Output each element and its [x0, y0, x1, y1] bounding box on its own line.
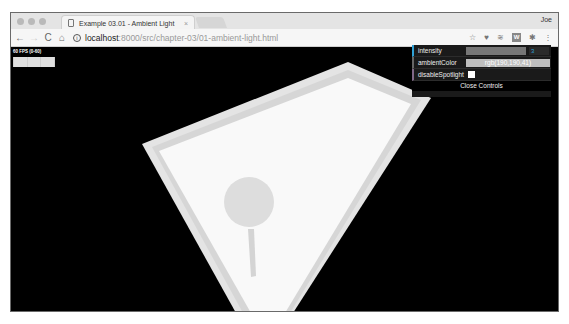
control-disable-spotlight: disableSpotlight [412, 69, 551, 81]
extension-bar: ☆ ♥ ≋ W ✱ ⋮ [469, 33, 552, 42]
sphere-object [224, 177, 274, 227]
ambient-color-label: ambientColor [418, 59, 466, 66]
ambient-color-input[interactable]: rgb(190,190,41) [466, 59, 550, 67]
home-icon[interactable]: ⌂ [55, 32, 69, 43]
buffer-icon[interactable]: ≋ [497, 33, 504, 42]
control-ambient-color: ambientColor rgb(190,190,41) [412, 57, 551, 69]
forward-arrow-icon[interactable]: → [27, 32, 41, 43]
info-icon[interactable]: i [73, 34, 81, 42]
intensity-value-input[interactable]: 3 [529, 47, 549, 55]
new-tab-button[interactable] [195, 17, 227, 28]
profile-name[interactable]: Joe [541, 16, 552, 23]
browser-tab[interactable]: Example 03.01 - Ambient Light × [61, 15, 195, 30]
intensity-slider[interactable] [466, 47, 526, 55]
url-host: localhost [85, 33, 119, 43]
close-controls-button[interactable]: Close Controls [412, 81, 551, 91]
ground-plane [159, 78, 411, 312]
browser-window: Example 03.01 - Ambient Light × Joe ← → … [10, 12, 559, 312]
twitter-icon[interactable]: ♥ [484, 33, 489, 42]
tab-title: Example 03.01 - Ambient Light [79, 20, 174, 27]
url-path: :8000/src/chapter-03/01-ambient-light.ht… [119, 33, 279, 43]
fps-graph [13, 57, 55, 67]
dat-gui-controls: intensity 3 ambientColor rgb(190,190,41)… [412, 45, 551, 97]
disable-spotlight-checkbox[interactable] [468, 71, 475, 78]
maximize-window-button[interactable] [39, 18, 46, 25]
disable-spotlight-label: disableSpotlight [418, 71, 464, 78]
tab-close-icon[interactable]: × [184, 20, 188, 27]
fps-stats-panel[interactable]: 60 FPS (0-60) [13, 49, 55, 67]
document-icon [68, 19, 74, 27]
star-icon[interactable]: ☆ [469, 33, 476, 42]
menu-icon[interactable]: ⋮ [544, 33, 552, 42]
extension-icon[interactable]: ✱ [529, 33, 536, 42]
fps-label: 60 FPS (0-60) [13, 49, 55, 54]
title-bar: Example 03.01 - Ambient Light × Joe [11, 13, 558, 29]
w-extension-icon[interactable]: W [512, 33, 521, 42]
back-arrow-icon[interactable]: ← [13, 32, 27, 43]
minimize-window-button[interactable] [28, 18, 35, 25]
webgl-canvas[interactable]: 60 FPS (0-60) intensity 3 ambientColor r… [11, 48, 558, 312]
intensity-label: intensity [418, 47, 466, 54]
address-bar[interactable]: i localhost:8000/src/chapter-03/01-ambie… [73, 33, 278, 43]
close-window-button[interactable] [17, 18, 24, 25]
control-intensity: intensity 3 [412, 45, 551, 57]
reload-icon[interactable]: C [41, 32, 55, 43]
